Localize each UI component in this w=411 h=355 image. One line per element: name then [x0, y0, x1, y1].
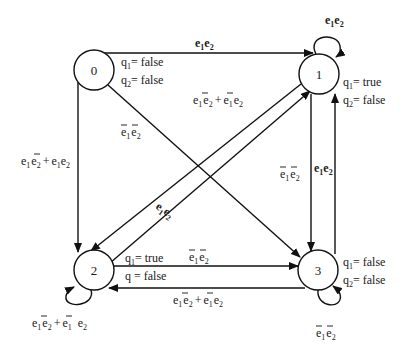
edge-label-0-2: e1e2+e1e2 — [21, 154, 70, 170]
edge-label-3-2: e1e2+e1e2 — [173, 293, 223, 309]
edge-label-3-3: e1e2 — [316, 326, 336, 342]
state-node-2: 2 — [74, 250, 114, 290]
edge-label-2-1: e1e2+e1e2 — [193, 93, 243, 109]
edge-label-1-3: e1e2 — [280, 167, 300, 183]
svg-text:q1= true: q1= true — [125, 251, 163, 267]
svg-text:e1e2: e1e2 — [280, 167, 300, 183]
state-diagram: 0 1 2 3 q1= false q2= false q1= true q2=… — [0, 0, 411, 355]
edge-label-0-3: e1e2 — [121, 125, 141, 141]
svg-text:e1e2: e1e2 — [121, 125, 141, 141]
edge-label-1-2: e1e2 — [152, 199, 176, 223]
edge-label-1-1: e1e2 — [325, 13, 344, 29]
node-1-outputs: q1= true q2= false — [343, 75, 385, 109]
edge-1-to-2 — [91, 84, 301, 251]
node-1-label: 1 — [316, 67, 323, 82]
node-2-label: 2 — [91, 263, 98, 278]
svg-text:q1= false: q1= false — [121, 55, 163, 71]
svg-text:e1e2: e1e2 — [316, 326, 336, 342]
node-0-outputs: q1= false q2= false — [121, 55, 163, 89]
svg-text:e1e2+e1e2: e1e2+e1e2 — [21, 154, 70, 170]
edge-label-0-1: e1e2 — [195, 36, 214, 52]
edge-label-3-1: e1e2 — [314, 161, 333, 177]
svg-text:e1e2+e1e2: e1e2+e1e2 — [32, 316, 87, 332]
edge-0-to-3 — [108, 85, 300, 257]
node-3-label: 3 — [315, 263, 322, 278]
svg-text:q = false: q = false — [125, 269, 166, 283]
svg-text:q2= false: q2= false — [343, 273, 385, 289]
node-3-outputs: q1= false q2= false — [343, 255, 385, 289]
svg-text:e1e2: e1e2 — [189, 250, 209, 266]
edge-label-2-3: e1e2 — [189, 250, 209, 266]
node-0-label: 0 — [91, 63, 98, 78]
svg-text:e1e2+e1e2: e1e2+e1e2 — [193, 93, 243, 109]
state-node-3: 3 — [298, 250, 338, 290]
svg-text:q2= false: q2= false — [343, 93, 385, 109]
svg-text:e1e2+e1e2: e1e2+e1e2 — [173, 293, 223, 309]
svg-text:q1= false: q1= false — [343, 255, 385, 271]
edge-label-2-2: e1e2+e1e2 — [32, 316, 87, 332]
svg-text:q2= false: q2= false — [121, 73, 163, 89]
state-node-1: 1 — [299, 54, 339, 94]
svg-text:q1= true: q1= true — [343, 75, 381, 91]
state-node-0: 0 — [74, 50, 114, 90]
node-2-outputs: q1= true q = false — [125, 251, 166, 283]
